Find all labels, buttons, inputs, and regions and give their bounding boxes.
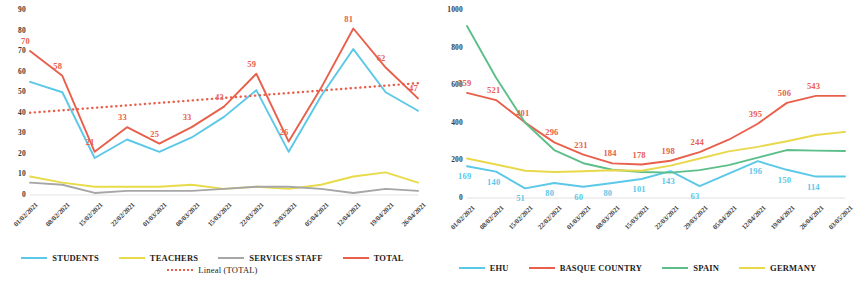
y-axis-tick-label: 80: [0, 26, 26, 35]
data-point-label: 51: [516, 193, 525, 203]
y-axis-tick-label: 70: [0, 46, 26, 55]
y-axis-tick-label: 50: [0, 87, 26, 96]
series-line-services-staff: [30, 183, 418, 193]
data-point-label: 47: [409, 83, 418, 93]
y-axis-tick-label: 40: [0, 108, 26, 117]
legend-item[interactable]: STUDENTS: [21, 253, 98, 263]
data-point-label: 559: [458, 78, 471, 88]
legend-item[interactable]: GERMANY: [739, 263, 816, 273]
legend-color-swatch: [21, 257, 47, 259]
legend-color-swatch: [119, 257, 145, 259]
legend-label: EHU: [490, 263, 509, 273]
series-line-spain: [467, 26, 845, 173]
series-line-total: [30, 29, 418, 152]
data-point-label: 81: [344, 14, 353, 24]
chart-legend-left: STUDENTSTEACHERSSERVICES STAFFTOTALLinea…: [0, 252, 425, 276]
chart-plot-right: [425, 0, 850, 285]
legend-color-swatch: [662, 267, 688, 269]
data-point-label: 60: [574, 192, 583, 202]
legend-color-swatch: [739, 267, 765, 269]
data-point-label: 521: [487, 85, 500, 95]
series-line-germany: [467, 132, 845, 172]
data-point-label: 58: [53, 61, 62, 71]
data-point-label: 33: [118, 112, 127, 122]
series-line-teachers: [30, 172, 418, 188]
data-point-label: 178: [632, 150, 645, 160]
chart-legend-right: EHUBASQUE COUNTRYSPAINGERMANY: [425, 262, 850, 274]
data-point-label: 244: [691, 137, 704, 147]
chart-panel-left: 0102030405060708090 01/02/202108/02/2021…: [0, 0, 425, 285]
y-axis-tick-label: 60: [0, 67, 26, 76]
data-point-label: 143: [662, 176, 675, 186]
legend-color-swatch: [459, 267, 485, 269]
legend-item[interactable]: SERVICES STAFF: [218, 253, 322, 263]
y-axis-tick-label: 30: [0, 128, 26, 137]
legend-label: BASQUE COUNTRY: [560, 263, 643, 273]
data-point-label: 21: [86, 137, 95, 147]
data-point-label: 150: [778, 175, 791, 185]
legend-item[interactable]: SPAIN: [662, 263, 719, 273]
data-point-label: 231: [574, 140, 587, 150]
data-point-label: 62: [377, 53, 386, 63]
data-point-label: 140: [487, 177, 500, 187]
legend-item[interactable]: EHU: [459, 263, 509, 273]
data-point-label: 33: [183, 112, 192, 122]
data-point-label: 43: [215, 92, 224, 102]
data-point-label: 169: [458, 171, 471, 181]
legend-item[interactable]: TEACHERS: [119, 253, 198, 263]
legend-label: TOTAL: [374, 253, 404, 263]
y-axis-tick-label: 800: [433, 43, 463, 52]
data-point-label: 114: [807, 182, 820, 192]
legend-color-swatch: [343, 257, 369, 259]
chart-plot-left: [0, 0, 425, 285]
y-axis-tick-label: 20: [0, 149, 26, 158]
legend-label: SPAIN: [693, 263, 719, 273]
series-line-lineal-total-: [30, 83, 418, 113]
legend-label: GERMANY: [770, 263, 816, 273]
data-point-label: 101: [632, 184, 645, 194]
y-axis-tick-label: 90: [0, 5, 26, 14]
y-axis-tick-label: 200: [433, 155, 463, 164]
legend-label: TEACHERS: [150, 253, 198, 263]
legend-item[interactable]: Lineal (TOTAL): [167, 265, 257, 275]
legend-label: Lineal (TOTAL): [198, 265, 257, 275]
data-point-label: 25: [150, 129, 159, 139]
data-point-label: 543: [807, 81, 820, 91]
y-axis-tick-label: 0: [0, 190, 26, 199]
y-axis-tick-label: 400: [433, 118, 463, 127]
legend-label: SERVICES STAFF: [249, 253, 322, 263]
legend-label: STUDENTS: [52, 253, 98, 263]
data-point-label: 395: [749, 109, 762, 119]
legend-color-swatch: [218, 257, 244, 259]
data-point-label: 80: [545, 188, 554, 198]
legend-item[interactable]: BASQUE COUNTRY: [529, 263, 643, 273]
data-point-label: 506: [778, 88, 791, 98]
legend-color-swatch: [529, 267, 555, 269]
y-axis-tick-label: 1000: [433, 5, 463, 14]
legend-color-swatch: [167, 269, 193, 271]
data-point-label: 401: [516, 108, 529, 118]
data-point-label: 296: [545, 127, 558, 137]
data-point-label: 70: [21, 36, 30, 46]
data-point-label: 80: [603, 188, 612, 198]
data-point-label: 184: [603, 148, 616, 158]
series-line-basque-country: [467, 93, 845, 165]
data-point-label: 196: [749, 166, 762, 176]
legend-item[interactable]: TOTAL: [343, 253, 404, 263]
y-axis-tick-label: 10: [0, 169, 26, 178]
y-axis-tick-label: 0: [433, 193, 463, 202]
data-point-label: 59: [247, 59, 256, 69]
data-point-label: 63: [691, 191, 700, 201]
data-point-label: 198: [662, 146, 675, 156]
data-point-label: 26: [280, 127, 289, 137]
chart-panel-right: 02004006008001000 01/02/202108/02/202115…: [425, 0, 850, 285]
